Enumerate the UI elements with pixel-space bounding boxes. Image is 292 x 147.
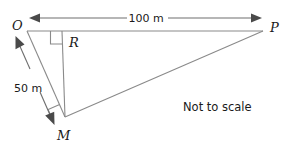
vertex-label-M: M: [56, 128, 71, 143]
not-to-scale-note: Not to scale: [183, 100, 252, 114]
geometry-diagram: 100 m 50 m O P R M Not to scale: [0, 0, 292, 147]
vertex-labels: O P R M: [12, 18, 279, 143]
dimension-100m-arrowhead-left: [29, 14, 40, 23]
dimension-100m: 100 m: [29, 12, 262, 25]
dimension-50m-label: 50 m: [14, 82, 42, 95]
vertex-label-R: R: [68, 35, 79, 50]
right-angle-marker-R: [51, 31, 63, 44]
vertex-label-O: O: [12, 18, 23, 33]
geometry-canvas: 100 m 50 m O P R M Not to scale: [0, 0, 292, 147]
dimension-100m-label: 100 m: [128, 12, 163, 25]
dimension-100m-arrowhead-right: [251, 14, 262, 23]
dimension-50m-arrowhead-bottom: [45, 112, 54, 125]
dimension-50m-line-upper: [19, 43, 31, 69]
dimension-50m-line-lower: [40, 92, 51, 116]
vertex-label-P: P: [269, 20, 279, 35]
segment-RM: [62, 31, 65, 117]
